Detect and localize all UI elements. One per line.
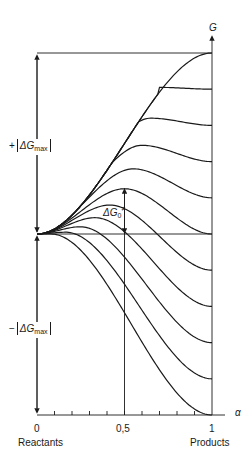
alpha-axis-label: α — [235, 407, 241, 419]
upper-delta-g-max-label: +ΔGmax — [9, 139, 53, 155]
x-tick-label-0: 0 — [34, 423, 40, 435]
free-energy-diagram — [0, 0, 248, 466]
g-axis-label: G — [209, 22, 217, 34]
reactants-label: Reactants — [18, 437, 63, 449]
products-label: Products — [190, 437, 229, 449]
x-tick-label-1: 1 — [209, 423, 215, 435]
intrinsic-barrier-label: ΔG0≠ — [103, 203, 125, 222]
x-tick-label-0-5: 0,5 — [116, 423, 130, 435]
alpha-axis-ticks — [55, 411, 195, 415]
lower-delta-g-max-label: −ΔGmax — [9, 322, 53, 338]
